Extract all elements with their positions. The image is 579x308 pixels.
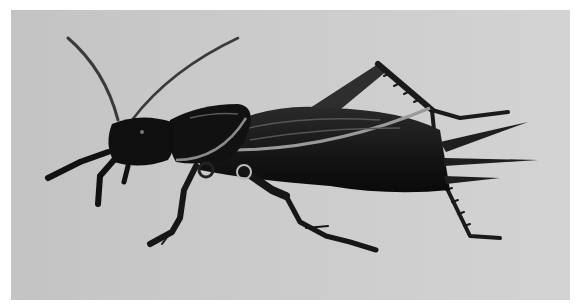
illustration-panel: Black-and-white drawing of a cricket in …	[11, 10, 570, 300]
head	[108, 117, 174, 165]
front-leg	[150, 166, 196, 244]
cricket-illustration	[11, 10, 570, 300]
cerci	[440, 122, 538, 184]
palps	[48, 152, 128, 204]
